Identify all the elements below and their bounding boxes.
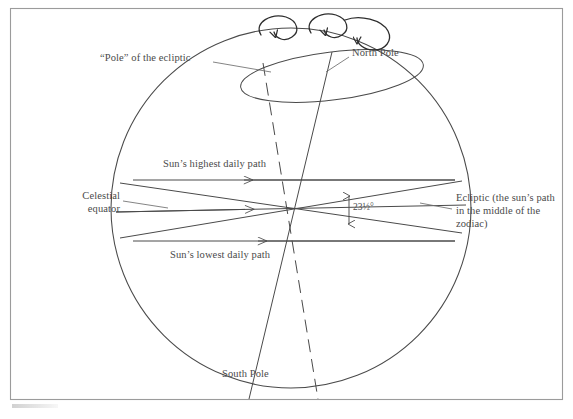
- label-obliquity-angle: 23½°: [353, 202, 374, 214]
- precession-arrows: [259, 14, 389, 50]
- precession-arrow-2: [309, 14, 347, 37]
- cropped-caption-fragment: [12, 404, 58, 408]
- label-north-pole: North Pole: [352, 47, 399, 60]
- label-ecliptic: Ecliptic (the sun’s path in the middle o…: [456, 192, 564, 230]
- leader-pole-of-ecliptic: [213, 62, 271, 72]
- label-suns-highest-daily-path: Sun’s highest daily path: [163, 158, 266, 171]
- label-leader-lines: [123, 57, 452, 209]
- label-suns-lowest-daily-path: Sun’s lowest daily path: [170, 249, 270, 262]
- leader-celestial-equator: [123, 201, 168, 208]
- celestial-rotation-axis: [249, 52, 332, 399]
- ecliptic-line: [120, 181, 462, 238]
- label-pole-of-the-ecliptic: “Pole” of the ecliptic: [100, 52, 191, 65]
- ecliptic-pole-axis: [263, 63, 318, 399]
- equator-arrow: [116, 209, 245, 212]
- label-south-pole: South Pole: [222, 368, 269, 381]
- label-celestial-equator: Celestial equator: [48, 190, 120, 216]
- diagram-stage: “Pole” of the ecliptic North Pole Sun’s …: [0, 0, 573, 419]
